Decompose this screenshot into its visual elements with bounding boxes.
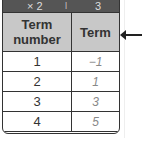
rule-operation-add: 3: [95, 0, 101, 12]
table-row: 2 1: [3, 72, 119, 92]
table-row: 4 5: [3, 112, 119, 132]
header-term-number: Term number: [3, 13, 72, 52]
term-cell: −1: [72, 52, 120, 72]
term-cell: 5: [72, 112, 120, 132]
left-arrow-icon: [124, 34, 142, 36]
sequence-table-panel: × 2 | 3 Term number Term 1 −1 2 1 3 3 4 …: [2, 0, 120, 134]
table-row: 1 −1: [3, 52, 119, 72]
term-cell: 3: [72, 92, 120, 112]
rule-separator: |: [65, 0, 67, 9]
term-number-cell: 3: [3, 92, 72, 112]
term-number-cell: 2: [3, 72, 72, 92]
header-row: Term number Term: [3, 13, 119, 52]
rule-operation-multiply: × 2: [27, 0, 43, 12]
page-edge: [124, 0, 125, 138]
header-term: Term: [72, 13, 120, 52]
sequence-table: Term number Term 1 −1 2 1 3 3 4 5: [3, 12, 119, 132]
table-row: 3 3: [3, 92, 119, 112]
term-cell: 1: [72, 72, 120, 92]
term-number-cell: 1: [3, 52, 72, 72]
term-number-cell: 4: [3, 112, 72, 132]
